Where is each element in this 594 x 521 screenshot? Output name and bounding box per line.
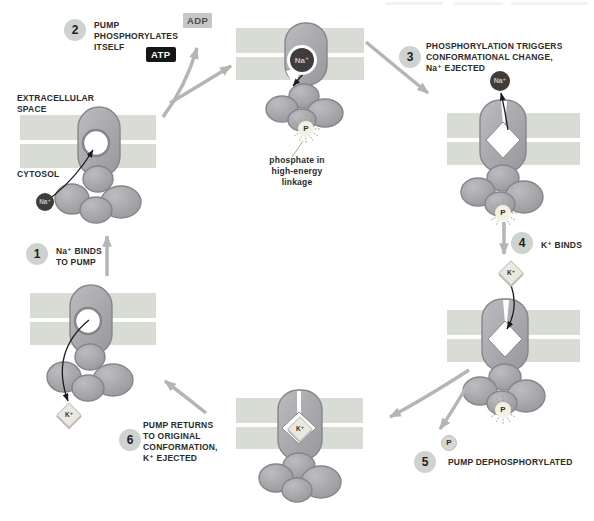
step-1-circle: 1 [26,243,48,265]
potassium-ion-label: K⁺ [65,411,73,419]
step-5-label: PUMP DEPHOSPHORYLATED [448,457,572,468]
phosphate-note-label: phosphate in high-energy linkage [266,155,328,188]
sodium-ion-ejected: Na⁺ [490,71,510,91]
step-6-circle: 6 [119,429,141,451]
adp-badge: ADP [183,13,212,28]
step-5-circle: 5 [414,451,436,473]
sodium-ion-label: Na⁺ [494,77,507,85]
potassium-ion-label: K⁺ [296,425,304,433]
atp-badge: ATP [146,47,176,62]
step-2-circle: 2 [64,19,86,41]
sodium-potassium-pump-cycle-diagram: EXTRACELLULAR SPACE CYTOSOL phosphate in… [0,0,594,521]
phosphate-label-released: P [441,435,457,451]
extracellular-space-label: EXTRACELLULAR SPACE [17,93,97,115]
phosphate-label-top: P [298,121,314,137]
step-3-circle: 3 [399,46,421,68]
step-6-label: PUMP RETURNS TO ORIGINAL CONFORMATION, K… [143,420,221,464]
step-3-label: PHOSPHORYLATION TRIGGERS CONFORMATIONAL … [426,41,566,74]
phosphate-label-right-upper: P [495,205,511,221]
sodium-ion-cytosol: Na⁺ [36,193,54,211]
cycle-arrow-1-to-2 [170,66,231,103]
sodium-ion-label: Na⁺ [295,56,309,65]
cycle-arrow-4-to-6 [390,370,469,417]
phosphate-label-right-lower: P [495,402,511,418]
step-1-label: Na⁺ BINDS TO PUMP [56,246,116,268]
step-4-label: K⁺ BINDS [541,240,582,251]
sodium-ion-label: Na⁺ [39,198,51,206]
cytosol-label: CYTOSOL [17,169,59,180]
scan-artifact [386,2,588,5]
step-4-circle: 4 [511,232,533,254]
cycle-arrow-p-release [440,384,468,429]
cycle-arrow-5-to-6 [165,381,206,413]
sodium-ion-bound: Na⁺ [290,48,314,72]
potassium-ion-label: K⁺ [507,269,515,277]
